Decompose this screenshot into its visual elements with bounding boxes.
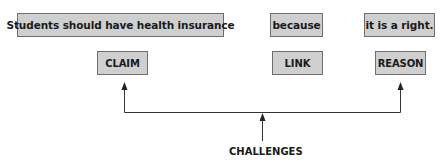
arrowhead-up-icon <box>398 82 404 90</box>
arrowhead-up-icon <box>260 113 266 121</box>
challenge-connectors <box>0 0 448 162</box>
arrowhead-up-icon <box>122 82 128 90</box>
challenges-label: CHALLENGES <box>229 146 303 157</box>
